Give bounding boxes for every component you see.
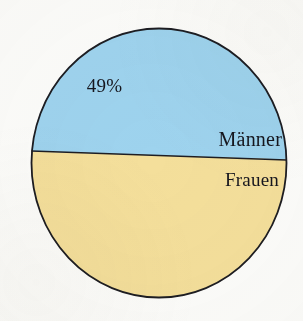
pie-slice-label-frauen: Frauen [0,170,279,189]
pie-chart-svg [0,0,303,321]
pie-slice-label-maenner: Männer [0,129,282,149]
pie-data-label-percent: 49% [0,76,209,95]
pie-chart-figure: 49% Männer Frauen [0,0,303,321]
